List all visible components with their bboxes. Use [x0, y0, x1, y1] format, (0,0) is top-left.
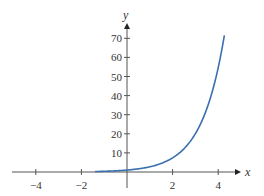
y-tick-label: 70 [111, 32, 123, 44]
y-tick-label: 40 [111, 90, 123, 102]
x-tick-label: 4 [215, 179, 221, 191]
x-tick-label: 2 [170, 179, 176, 191]
y-tick-label: 20 [111, 128, 123, 140]
y-tick-label: 60 [111, 51, 123, 63]
y-tick-label: 10 [111, 147, 123, 159]
x-axis-arrow-icon [235, 169, 241, 175]
exponential-chart: −4−22410203040506070 x y [0, 0, 264, 196]
x-tick-label: −4 [30, 179, 42, 191]
axes [12, 23, 241, 188]
y-tick-label: 30 [111, 109, 123, 121]
x-tick-label: −2 [76, 179, 88, 191]
y-tick-label: 50 [111, 71, 123, 83]
ticks: −4−22410203040506070 [30, 32, 222, 191]
x-axis-label: x [244, 165, 251, 179]
y-axis-arrow-icon [124, 23, 130, 29]
y-axis-label: y [122, 8, 129, 22]
